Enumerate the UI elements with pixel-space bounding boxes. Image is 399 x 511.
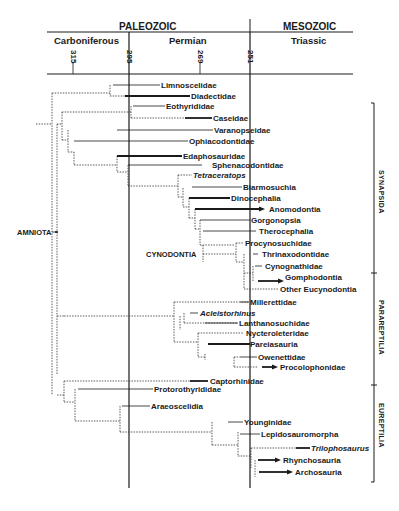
taxon-eothyrididae: Eothyrididae [166,102,214,111]
taxon-limnoscelidae: Limnoscelidae [161,81,217,90]
clade-label-eureptilia: EUREPTILIA [378,403,385,448]
node-label-cynodontia: CYNODONTIA [146,250,196,259]
taxon-nycteroleteridae: Nycteroleteridae [246,329,309,338]
phylogeny-tree-lines [0,0,399,511]
taxon-thrinaxodontidae: Thrinaxodontidae [262,250,329,259]
taxon-dinocephalia: Dinocephalia [231,194,281,203]
era-label-paleozoic: PALEOZOIC [119,21,177,32]
period-label-permian: Permian [169,35,207,46]
taxon-rhynchosauria: Rhynchosauria [283,456,341,465]
node-label-amniota: AMNIOTA [17,228,51,237]
tick-label-251: 251 [246,50,255,63]
taxon-sphenacodontidae: Sphenacodontidae [212,161,284,170]
clade-label-parareptilia: PARAREPTILIA [378,300,385,355]
taxon-pareiasauria: Pareiasauria [250,340,298,349]
taxon-varanopseidae: Varanopseidae [214,126,270,135]
taxon-protorothyrididae: Protorothyrididae [154,385,221,394]
taxon-lepidosauromorpha: Lepidosauromorpha [261,430,338,439]
taxon-other-eucynodontia: Other Eucynodontia [280,285,356,294]
taxon-procynosuchidae: Procynosuchidae [245,239,312,248]
era-label-mesozoic: MESOZOIC [283,21,336,32]
taxon-caseidae: Caseidae [213,114,248,123]
tick-label-269: 269 [196,50,205,63]
taxon-tetraceratops: Tetraceratops [193,171,246,180]
taxon-procolophonidae: Procolophonidae [280,363,345,372]
taxon-gorgonopsia: Gorgonopsia [251,216,301,225]
tick-label-295: 295 [125,50,134,63]
period-label-triassic: Triassic [291,35,326,46]
tick-label-315: 315 [69,50,78,63]
taxon-gomphodontia: Gomphodontia [285,273,342,282]
taxon-lanthanosuchidae: Lanthanosuchidae [239,319,310,328]
taxon-archosauria: Archosauria [295,468,342,477]
taxon-cynognathidae: Cynognathidae [265,262,323,271]
taxon-araeoscelidia: Araeoscelidia [151,402,203,411]
taxon-anomodontia: Anomodontia [269,205,321,214]
taxon-diadectidae: Diadectidae [191,92,236,101]
taxon-ophiacodontidae: Ophiacodontidae [189,137,254,146]
taxon-edaphosauridae: Edaphosauridae [183,152,245,161]
taxon-owenettidae: Owenettidae [258,353,306,362]
taxon-younginidae: Younginidae [244,418,291,427]
taxon-biarmosuchia: Biarmosuchia [243,183,296,192]
taxon-therocephalia: Therocephalia [259,227,313,236]
taxon-acleistorhinus: Acleistorhinus [200,309,256,318]
clade-label-synapsida: SYNAPSIDA [378,170,385,214]
taxon-trilophosaurus: Trilophosaurus [311,444,369,453]
taxon-millerettidae: Millerettidae [250,298,297,307]
period-label-carboniferous: Carboniferous [54,35,119,46]
